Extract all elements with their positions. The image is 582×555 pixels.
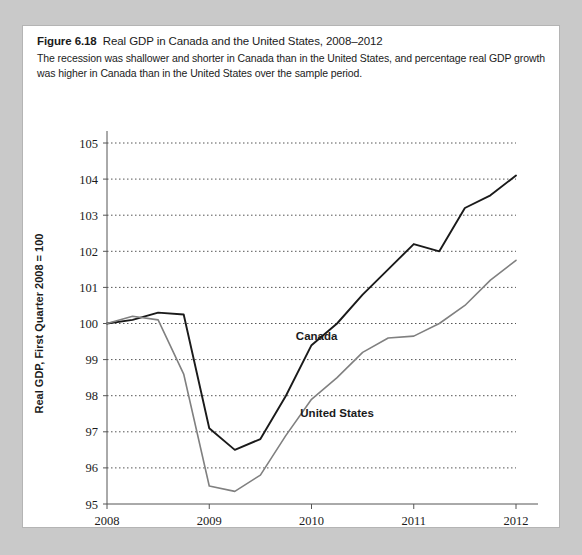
y-tick-label: 99 xyxy=(86,353,99,367)
x-tick-label: 2009 xyxy=(197,514,222,528)
figure-title-text: Real GDP in Canada and the United States… xyxy=(103,35,383,47)
y-tick-label: 96 xyxy=(86,461,99,475)
figure-outer-background: Figure 6.18 Real GDP in Canada and the U… xyxy=(0,0,582,555)
x-tick-labels-group: 20082009201020112012 xyxy=(95,504,529,528)
series-line-united-states xyxy=(107,260,516,491)
x-tick-label: 2008 xyxy=(95,514,120,528)
y-tick-labels-group: 9596979899100101102103104105 xyxy=(79,137,107,512)
x-tick-label: 2010 xyxy=(299,514,324,528)
chart-plot-area: 9596979899100101102103104105 20082009201… xyxy=(23,86,561,529)
x-tick-label: 2011 xyxy=(401,514,426,528)
y-tick-label: 100 xyxy=(79,317,98,331)
y-tick-label: 95 xyxy=(86,498,99,512)
y-tick-label: 103 xyxy=(79,209,98,223)
y-tick-label: 97 xyxy=(86,425,99,439)
figure-title: Figure 6.18 Real GDP in Canada and the U… xyxy=(37,34,545,49)
x-tick-label: 2012 xyxy=(504,514,529,528)
y-tick-label: 101 xyxy=(79,281,98,295)
y-tick-label: 104 xyxy=(79,173,99,187)
y-tick-label: 105 xyxy=(79,137,98,151)
axis-lines-group xyxy=(107,131,538,504)
y-tick-label: 98 xyxy=(86,389,99,403)
figure-header: Figure 6.18 Real GDP in Canada and the U… xyxy=(37,34,545,80)
y-tick-label: 102 xyxy=(79,245,98,259)
y-axis-title: Real GDP, First Quarter 2008 = 100 xyxy=(33,234,45,414)
series-label-united-states: United States xyxy=(300,407,374,419)
figure-number-label: Figure 6.18 xyxy=(37,35,97,47)
figure-caption: The recession was shallower and shorter … xyxy=(37,51,545,80)
series-label-canada: Canada xyxy=(296,330,338,342)
line-chart-svg: 9596979899100101102103104105 20082009201… xyxy=(23,86,561,529)
figure-panel: Figure 6.18 Real GDP in Canada and the U… xyxy=(22,25,560,528)
